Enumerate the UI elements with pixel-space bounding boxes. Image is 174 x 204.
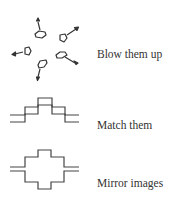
explode-icon	[0, 14, 95, 86]
stair-match-icon	[0, 92, 95, 140]
label-mirror-images: Mirror images	[97, 177, 163, 189]
label-blow-them-up: Blow them up	[97, 48, 162, 60]
mirror-cross-icon	[0, 145, 95, 195]
label-match-them: Match them	[97, 119, 152, 131]
